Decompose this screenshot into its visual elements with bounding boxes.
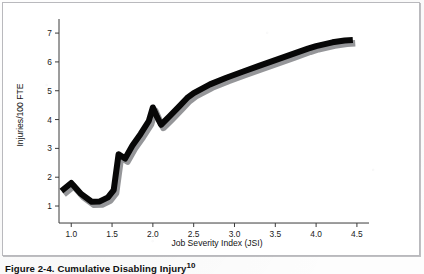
line-chart: 12345671.01.52.02.53.03.54.04.5 Job Seve… <box>3 3 420 256</box>
x-tick-label: 2.0 <box>147 229 159 239</box>
series-shadow <box>64 43 355 205</box>
x-tick-label: 4.0 <box>310 229 322 239</box>
y-tick-label: 7 <box>47 28 52 38</box>
x-axis-title: Job Severity Index (JSI) <box>171 238 262 248</box>
page-background: 12345671.01.52.02.53.03.54.04.5 Job Seve… <box>0 0 424 274</box>
figure-caption: Figure 2-4. Cumulative Disabling Injury1… <box>5 259 419 274</box>
x-tick-label: 4.5 <box>351 229 363 239</box>
x-tick-label: 3.5 <box>269 229 281 239</box>
x-tick-label: 1.0 <box>65 229 77 239</box>
chart-series <box>61 40 355 205</box>
y-tick-label: 1 <box>47 201 52 211</box>
x-tick-label: 1.5 <box>106 229 118 239</box>
chart-plot-area: 12345671.01.52.02.53.03.54.04.5 Job Seve… <box>3 3 419 255</box>
figure-caption-superscript: 10 <box>186 261 195 270</box>
series-line <box>61 40 352 202</box>
y-axis-title: Injuries/100 FTE <box>15 83 25 146</box>
y-tick-label: 2 <box>47 172 52 182</box>
y-tick-label: 5 <box>47 86 52 96</box>
figure-caption-text: Figure 2-4. Cumulative Disabling Injury <box>5 263 186 274</box>
y-tick-label: 4 <box>47 115 52 125</box>
figure-frame: 12345671.01.52.02.53.03.54.04.5 Job Seve… <box>2 2 420 256</box>
y-tick-label: 3 <box>47 143 52 153</box>
y-tick-label: 6 <box>47 57 52 67</box>
